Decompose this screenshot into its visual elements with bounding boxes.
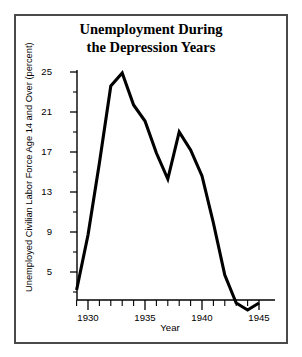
- y-axis-label: Unemployed Civilian Labor Force Age 14 a…: [24, 62, 34, 292]
- x-minor-ticks: [77, 300, 248, 306]
- x-major-ticks: [88, 300, 259, 310]
- x-axis-label: Year: [70, 322, 270, 333]
- unemployment-data-line: [77, 73, 259, 310]
- line-chart-plot: [14, 14, 288, 344]
- figure-container: Unemployment During the Depression Years: [0, 0, 302, 357]
